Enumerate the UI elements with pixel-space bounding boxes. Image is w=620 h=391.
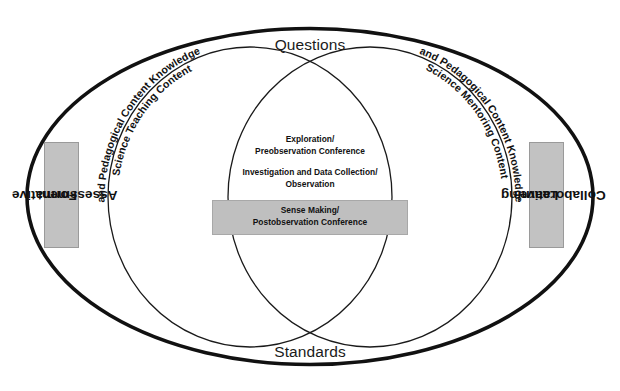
center-item-sense-making-line1: Sense Making/ <box>215 205 405 217</box>
collaborative-learning-label: CollaborativeLearning <box>522 152 572 238</box>
center-item-exploration-line2: Preobservation Conference <box>212 146 408 158</box>
center-item-sense-making: Sense Making/ Postobservation Conference <box>212 200 408 235</box>
intersection-content: Exploration/ Preobservation Conference I… <box>212 134 408 235</box>
formative-assessment-label: FormativeAssessment <box>37 155 87 235</box>
center-item-exploration-line1: Exploration/ <box>212 134 408 146</box>
center-item-investigation-line1: Investigation and Data Collection/ <box>212 167 408 179</box>
outer-label-bottom: Standards <box>274 343 346 360</box>
center-item-investigation: Investigation and Data Collection/ Obser… <box>212 167 408 191</box>
formative-assessment-line2: Assessment <box>38 187 118 204</box>
collaborative-learning-label-box: CollaborativeLearning <box>529 142 564 248</box>
center-item-investigation-line2: Observation <box>212 179 408 191</box>
collaborative-learning-line2: Learning <box>487 187 573 204</box>
center-item-exploration: Exploration/ Preobservation Conference <box>212 134 408 158</box>
formative-assessment-label-box: FormativeAssessment <box>44 142 79 248</box>
center-item-sense-making-line2: Postobservation Conference <box>215 217 405 229</box>
venn-diagram-figure: Questions Standards Science Teaching Con… <box>0 0 620 391</box>
outer-label-top: Questions <box>275 36 346 53</box>
